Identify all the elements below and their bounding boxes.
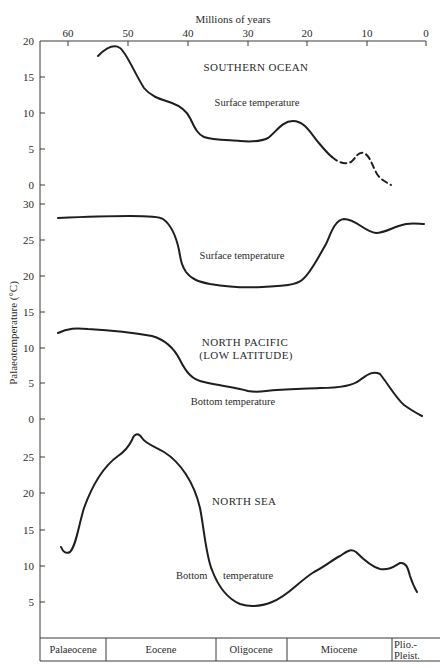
- x-axis: 60 50 40 30 20 10 0: [40, 27, 429, 46]
- southern-ocean-surface-dashed-curve: [332, 153, 391, 185]
- y-tick-label: 25: [23, 234, 35, 246]
- y-tick-label: 0: [29, 179, 35, 191]
- epoch-oligocene: Oligocene: [229, 644, 272, 655]
- y-tick-label: 20: [23, 487, 35, 499]
- y-tick-label: 30: [23, 198, 35, 210]
- y-tick-label: 15: [23, 524, 35, 536]
- x-tick-label: 60: [63, 27, 75, 39]
- x-axis-title: Millions of years: [195, 13, 270, 25]
- epoch-palaeocene: Palaeocene: [49, 644, 97, 655]
- y-axis-title: Palaeotemperature (°C): [7, 281, 20, 385]
- y-tick-label: 25: [23, 451, 35, 463]
- curve-label-bottom-part2: temperature: [223, 570, 273, 581]
- panel-north-sea: 25 20 15 10 5 NORTH SEA Bottom temperatu…: [23, 434, 417, 608]
- y-tick-label: 10: [23, 560, 35, 572]
- y-tick-label: 5: [29, 596, 35, 608]
- panel-southern-ocean: 20 15 10 5 0 SOUTHERN OCEAN Surface temp…: [23, 35, 391, 191]
- curve-label-surface: Surface temperature: [215, 97, 300, 108]
- y-tick-label: 0: [29, 413, 35, 425]
- x-tick-label: 10: [362, 27, 374, 39]
- curve-label-bottom: Bottom temperature: [191, 396, 276, 407]
- epoch-eocene: Eocene: [146, 644, 177, 655]
- y-tick-label: 15: [23, 306, 35, 318]
- y-tick-label: 20: [23, 35, 35, 47]
- epoch-miocene: Miocene: [321, 644, 358, 655]
- curve-label-bottom-part1: Bottom: [176, 570, 208, 581]
- x-tick-label: 30: [243, 27, 255, 39]
- y-tick-label: 10: [23, 342, 35, 354]
- panel-subtitle-north-pacific: (LOW LATITUDE): [199, 349, 293, 362]
- epoch-pliocene: Plio.-: [394, 639, 418, 650]
- y-tick-label: 20: [23, 270, 35, 282]
- palaeotemperature-chart: Millions of years 60 50 40 30 20 10 0 Pa…: [0, 0, 448, 668]
- x-tick-label: 0: [423, 27, 429, 39]
- y-tick-label: 5: [29, 143, 35, 155]
- curve-label-surface: Surface temperature: [200, 250, 285, 261]
- y-tick-label: 15: [23, 71, 35, 83]
- y-tick-label: 5: [29, 377, 35, 389]
- x-tick-label: 40: [183, 27, 195, 39]
- panel-title-north-pacific: NORTH PACIFIC: [202, 336, 288, 348]
- panel-title-southern-ocean: SOUTHERN OCEAN: [204, 61, 309, 73]
- panel-title-north-sea: NORTH SEA: [212, 495, 276, 507]
- x-tick-label: 20: [302, 27, 314, 39]
- epoch-pleistocene: Pleist.: [394, 650, 420, 661]
- panel-north-pacific: 30 25 20 15 10 5 0 Surface temperature N…: [23, 198, 424, 425]
- y-tick-label: 10: [23, 107, 35, 119]
- epoch-bar: Palaeocene Eocene Oligocene Miocene Plio…: [40, 638, 440, 661]
- x-tick-label: 50: [123, 27, 135, 39]
